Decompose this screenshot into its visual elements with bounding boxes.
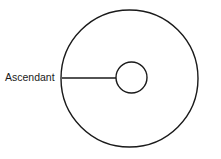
inner-circle [116,62,147,93]
diagram-container: Ascendant [0,0,221,159]
ascendant-diagram: Ascendant [0,0,221,159]
ascendant-label: Ascendant [5,71,55,83]
